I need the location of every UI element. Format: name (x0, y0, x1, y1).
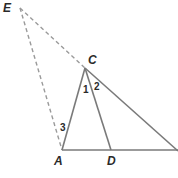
geometry-diagram: E C A D 1 2 3 (0, 0, 178, 178)
label-A: A (53, 154, 63, 168)
angle-label-2: 2 (94, 81, 100, 92)
label-D: D (107, 154, 116, 168)
label-E: E (3, 1, 12, 15)
label-C: C (88, 53, 97, 67)
angle-label-1: 1 (83, 84, 89, 95)
segment-EA (20, 8, 62, 150)
segment-CA (62, 68, 85, 150)
angle-label-3: 3 (60, 122, 66, 133)
segment-EC (20, 8, 85, 68)
